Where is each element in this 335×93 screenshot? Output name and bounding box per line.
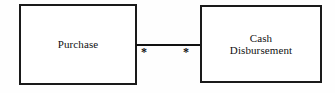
diagram-canvas: Purchase * * Cash Disbursement bbox=[0, 0, 335, 93]
entity-box-purchase[interactable]: Purchase bbox=[19, 4, 137, 85]
multiplicity-marker-target: * bbox=[183, 46, 189, 58]
entity-label-purchase: Purchase bbox=[58, 38, 99, 51]
multiplicity-marker-source: * bbox=[141, 46, 147, 58]
entity-box-cash-disbursement[interactable]: Cash Disbursement bbox=[200, 5, 322, 83]
entity-label-cash-disbursement: Cash Disbursement bbox=[230, 32, 292, 57]
